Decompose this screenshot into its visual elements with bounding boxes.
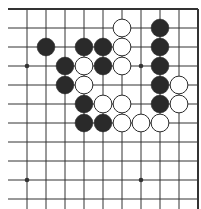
- white-stone: [113, 95, 131, 113]
- black-stone: [151, 76, 169, 94]
- stones-layer: [37, 19, 188, 132]
- black-stone: [56, 76, 74, 94]
- black-stone: [75, 38, 93, 56]
- black-stone: [151, 19, 169, 37]
- black-stone: [37, 38, 55, 56]
- white-stone: [170, 76, 188, 94]
- white-stone: [113, 38, 131, 56]
- white-stone: [113, 19, 131, 37]
- star-point: [25, 64, 30, 69]
- black-stone: [151, 57, 169, 75]
- black-stone: [75, 95, 93, 113]
- black-stone: [94, 57, 112, 75]
- black-stone: [151, 38, 169, 56]
- white-stone: [151, 114, 169, 132]
- star-point: [25, 178, 30, 183]
- white-stone: [132, 114, 150, 132]
- go-board: [0, 0, 201, 209]
- black-stone: [75, 114, 93, 132]
- star-point: [139, 64, 144, 69]
- white-stone: [170, 95, 188, 113]
- black-stone: [94, 114, 112, 132]
- white-stone: [94, 95, 112, 113]
- white-stone: [113, 57, 131, 75]
- white-stone: [75, 76, 93, 94]
- black-stone: [56, 57, 74, 75]
- black-stone: [94, 38, 112, 56]
- white-stone: [113, 114, 131, 132]
- white-stone: [75, 57, 93, 75]
- star-point: [139, 178, 144, 183]
- black-stone: [151, 95, 169, 113]
